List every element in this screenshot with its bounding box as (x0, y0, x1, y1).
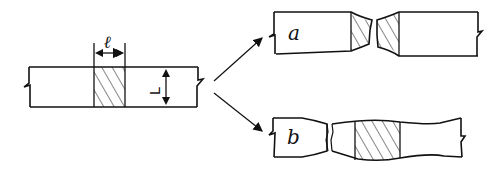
diagram-canvas: ℓ L a (0, 0, 492, 171)
outcome-a-specimen (269, 12, 482, 56)
outcome-b-label: b (287, 125, 300, 149)
height-label: L (147, 87, 163, 95)
height-dimension: L (147, 69, 170, 105)
gauge-region-hatch (94, 67, 125, 107)
break-line-right (197, 67, 203, 107)
outcome-a-label: a (288, 21, 300, 45)
outcome-b-gauge-hatch (355, 121, 400, 161)
break-line-left (24, 67, 30, 107)
gauge-width-label: ℓ (104, 32, 111, 52)
outcome-arrows (214, 38, 262, 131)
arrow-to-a (214, 38, 262, 81)
arrow-to-b (214, 93, 262, 131)
gauge-width-dimension: ℓ (95, 32, 124, 57)
